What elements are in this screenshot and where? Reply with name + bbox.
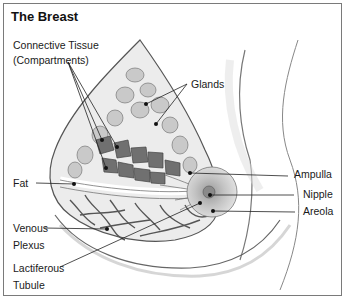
label-connective-tissue-line1: Connective Tissue: [13, 38, 99, 53]
label-fat: Fat: [13, 176, 28, 191]
diagram-title: The Breast: [11, 9, 78, 24]
tissue-cutaway: [50, 40, 218, 241]
label-connective-tissue: Connective Tissue (Compartments): [13, 38, 99, 68]
label-connective-tissue-line2: (Compartments): [13, 53, 99, 68]
label-venous-line1: Venous: [13, 221, 48, 236]
label-areola: Areola: [303, 204, 333, 219]
label-lactiferous-line1: Lactiferous: [13, 261, 64, 276]
label-lactiferous-tubule: Lactiferous Tubule: [13, 261, 64, 293]
label-glands: Glands: [191, 77, 224, 92]
label-venous-line2: Plexus: [13, 238, 48, 253]
label-nipple: Nipple: [303, 187, 333, 202]
label-ampulla: Ampulla: [294, 167, 332, 182]
label-lactiferous-line2: Tubule: [13, 278, 64, 293]
label-venous-plexus: Venous Plexus: [13, 221, 48, 253]
